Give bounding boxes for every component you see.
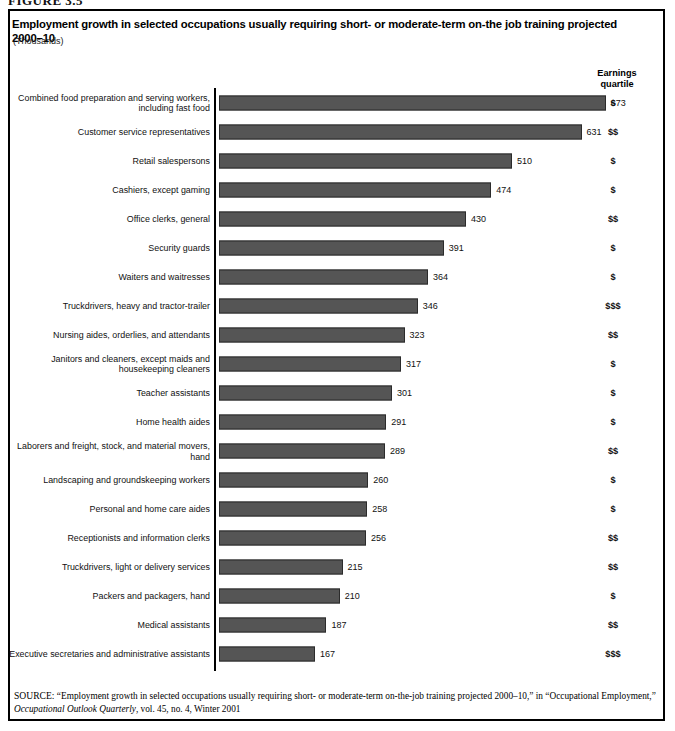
earnings-quartile-value: $ <box>568 243 658 253</box>
bar <box>219 356 401 371</box>
figure-caption: FIGURE 3.5 <box>8 0 83 5</box>
earnings-header-line1: Earnings <box>572 68 662 79</box>
chart-row: Nursing aides, orderlies, and attendants… <box>4 320 671 349</box>
bar <box>219 531 366 546</box>
bar-value-label: 258 <box>372 504 387 514</box>
source-note: SOURCE: “Employment growth in selected o… <box>14 690 661 715</box>
source-label: SOURCE: <box>14 690 55 701</box>
bar <box>219 444 385 459</box>
bar <box>219 589 340 604</box>
earnings-quartile-value: $ <box>568 98 658 108</box>
bar-value-label: 301 <box>397 388 412 398</box>
chart-row: Executive secretaries and administrative… <box>4 640 671 669</box>
category-label: Nursing aides, orderlies, and attendants <box>4 330 210 341</box>
earnings-quartile-value: $ <box>568 475 658 485</box>
bar <box>219 560 343 575</box>
earnings-quartile-value: $ <box>568 359 658 369</box>
bar <box>219 618 326 633</box>
earnings-quartile-value: $$ <box>568 127 658 137</box>
bar-value-label: 256 <box>371 533 386 543</box>
bar <box>219 473 368 488</box>
category-label: Teacher assistants <box>4 388 210 399</box>
earnings-quartile-value: $$ <box>568 330 658 340</box>
earnings-quartile-value: $$$ <box>568 649 658 659</box>
chart-row: Cashiers, except gaming474$ <box>4 175 671 204</box>
source-text-part1: “Employment growth in selected occupatio… <box>57 691 656 701</box>
bar <box>219 415 386 430</box>
bar-value-label: 167 <box>320 649 335 659</box>
category-label: Personal and home care aides <box>4 504 210 515</box>
category-label: Landscaping and groundskeeping workers <box>4 475 210 486</box>
earnings-quartile-value: $$$ <box>568 301 658 311</box>
bar-chart-plot-area: Combined food preparation and serving wo… <box>4 82 671 676</box>
category-label: Packers and packagers, hand <box>4 591 210 602</box>
bar-value-label: 391 <box>449 243 464 253</box>
earnings-quartile-value: $$ <box>568 446 658 456</box>
chart-row: Retail salespersons510$ <box>4 146 671 175</box>
chart-row: Truckdrivers, heavy and tractor-trailer3… <box>4 291 671 320</box>
chart-row: Laborers and freight, stock, and materia… <box>4 437 671 466</box>
source-journal-title: Occupational Outlook Quarterly <box>14 704 136 714</box>
category-label: Cashiers, except gaming <box>4 184 210 195</box>
category-label: Retail salespersons <box>4 155 210 166</box>
bar <box>219 182 491 197</box>
bar-value-label: 291 <box>391 417 406 427</box>
bar-value-label: 187 <box>331 620 346 630</box>
earnings-quartile-value: $ <box>568 417 658 427</box>
bar <box>219 124 582 139</box>
category-label: Executive secretaries and administrative… <box>4 649 210 660</box>
chart-row: Landscaping and groundskeeping workers26… <box>4 466 671 495</box>
bar-value-label: 474 <box>496 185 511 195</box>
category-label: Medical assistants <box>4 620 210 631</box>
category-label: Security guards <box>4 243 210 254</box>
chart-row: Personal and home care aides258$ <box>4 495 671 524</box>
bar <box>219 240 444 255</box>
chart-row: Waiters and waitresses364$ <box>4 262 671 291</box>
bar <box>219 211 466 226</box>
bar-value-label: 215 <box>348 562 363 572</box>
bar-value-label: 317 <box>406 359 421 369</box>
bar-value-label: 260 <box>373 475 388 485</box>
bar <box>219 269 428 284</box>
chart-row: Receptionists and information clerks256$… <box>4 524 671 553</box>
bar-value-label: 323 <box>410 330 425 340</box>
earnings-quartile-value: $ <box>568 591 658 601</box>
chart-row: Security guards391$ <box>4 233 671 262</box>
bar-value-label: 346 <box>423 301 438 311</box>
bar-value-label: 430 <box>471 214 486 224</box>
category-label: Customer service representatives <box>4 126 210 137</box>
bar <box>219 502 367 517</box>
earnings-quartile-value: $$ <box>568 620 658 630</box>
category-label: Janitors and cleaners, except maids and … <box>4 353 210 374</box>
chart-row: Packers and packagers, hand210$ <box>4 582 671 611</box>
category-label: Waiters and waitresses <box>4 272 210 283</box>
earnings-quartile-value: $ <box>568 388 658 398</box>
chart-row: Medical assistants187$$ <box>4 611 671 640</box>
category-label: Laborers and freight, stock, and materia… <box>4 441 210 462</box>
category-label: Truckdrivers, light or delivery services <box>4 562 210 573</box>
earnings-quartile-value: $$ <box>568 214 658 224</box>
category-label: Receptionists and information clerks <box>4 533 210 544</box>
chart-row: Janitors and cleaners, except maids and … <box>4 349 671 378</box>
chart-row: Teacher assistants301$ <box>4 379 671 408</box>
earnings-quartile-value: $ <box>568 156 658 166</box>
earnings-quartile-value: $$ <box>568 533 658 543</box>
source-text-part2: , vol. 45, no. 4, Winter 2001 <box>136 704 241 714</box>
category-label: Home health aides <box>4 417 210 428</box>
bar <box>219 153 512 168</box>
bar <box>219 647 315 662</box>
units-label: (Thousands) <box>13 36 64 46</box>
bar <box>219 327 405 342</box>
bar <box>219 386 392 401</box>
bar-value-label: 210 <box>345 591 360 601</box>
category-label: Combined food preparation and serving wo… <box>4 92 210 113</box>
category-label: Office clerks, general <box>4 213 210 224</box>
bar <box>219 298 418 313</box>
earnings-quartile-value: $ <box>568 185 658 195</box>
page-title: Employment growth in selected occupation… <box>12 17 637 45</box>
chart-row: Home health aides291$ <box>4 408 671 437</box>
earnings-quartile-value: $$ <box>568 562 658 572</box>
category-label: Truckdrivers, heavy and tractor-trailer <box>4 301 210 312</box>
earnings-quartile-value: $ <box>568 504 658 514</box>
bar <box>219 95 606 110</box>
